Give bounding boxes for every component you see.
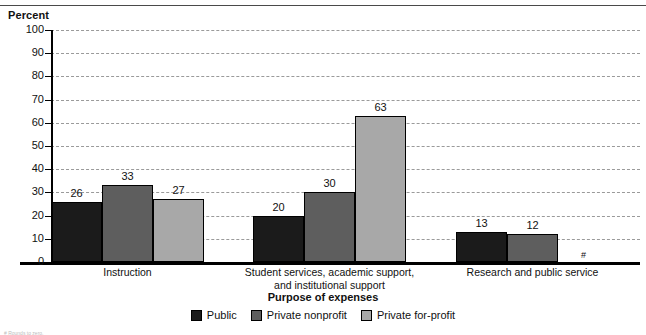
y-tick-label: 80 (4, 70, 44, 81)
bar-value-label: 33 (102, 170, 153, 182)
bar (507, 234, 558, 262)
y-tick-label: 20 (4, 210, 44, 221)
y-tick-mark (45, 146, 52, 147)
category-label: Instruction (18, 266, 238, 279)
legend-label: Private nonprofit (267, 309, 347, 321)
y-tick-label: 40 (4, 163, 44, 174)
legend-swatch-forprofit (361, 310, 372, 321)
category-label: Student services, academic support, and … (220, 266, 440, 292)
y-tick-mark (45, 169, 52, 170)
category-label: Research and public service (423, 266, 643, 279)
legend-swatch-nonprofit (251, 310, 262, 321)
y-tick-label: 70 (4, 94, 44, 105)
bar-value-label: 12 (507, 219, 558, 231)
bar (51, 202, 102, 262)
gridline (51, 146, 640, 147)
chart-legend: PublicPrivate nonprofitPrivate for-profi… (0, 309, 646, 321)
legend-label: Private for-profit (377, 309, 455, 321)
gridline (51, 30, 640, 31)
y-tick-label: 10 (4, 233, 44, 244)
bar (253, 216, 304, 262)
y-axis-tick-labels: 0102030405060708090100 (0, 0, 44, 335)
footnote-text: # Rounds to zero. (4, 330, 43, 335)
chart-figure: Percent 0102030405060708090100 Instructi… (0, 0, 646, 335)
y-tick-mark (45, 76, 52, 77)
bar-value-label: 27 (153, 184, 204, 196)
y-tick-label: 90 (4, 47, 44, 58)
legend-item[interactable]: Public (191, 309, 237, 321)
top-divider-rule (0, 5, 646, 6)
bar (456, 232, 507, 262)
bar (153, 199, 204, 262)
gridline (51, 100, 640, 101)
bar (102, 185, 153, 262)
y-tick-mark (45, 239, 52, 240)
bar-value-label: 63 (355, 101, 406, 113)
y-tick-mark (45, 123, 52, 124)
legend-label: Public (207, 309, 237, 321)
gridline (51, 76, 640, 77)
bar-value-label: # (558, 249, 609, 261)
y-tick-mark (45, 216, 52, 217)
x-axis-line (20, 262, 640, 265)
legend-item[interactable]: Private nonprofit (251, 309, 347, 321)
y-tick-mark (45, 30, 52, 31)
bar-value-label: 20 (253, 201, 304, 213)
bar-value-label: 13 (456, 217, 507, 229)
y-tick-mark (45, 53, 52, 54)
y-tick-label: 60 (4, 117, 44, 128)
y-tick-label: 30 (4, 186, 44, 197)
bar-value-label: 26 (51, 187, 102, 199)
legend-title: Purpose of expenses (0, 291, 646, 303)
y-tick-mark (45, 100, 52, 101)
y-tick-mark (45, 262, 52, 263)
bar (304, 192, 355, 262)
y-tick-label: 50 (4, 140, 44, 151)
bar (355, 116, 406, 262)
legend-swatch-public (191, 310, 202, 321)
gridline (51, 53, 640, 54)
y-tick-label: 100 (4, 24, 44, 35)
legend-item[interactable]: Private for-profit (361, 309, 455, 321)
bar-value-label: 30 (304, 177, 355, 189)
gridline (51, 123, 640, 124)
